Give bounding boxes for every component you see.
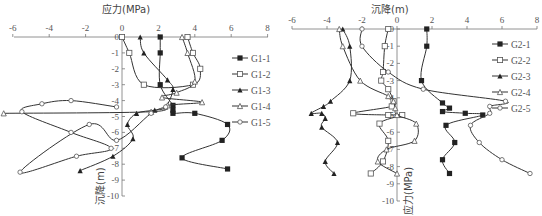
y-tick-label: -3 <box>387 76 395 86</box>
series-g1-5 <box>18 98 168 174</box>
chart-g2-y-axis-title: 应力(MPa) <box>402 167 414 215</box>
chart-canvas: 应力(MPa) 沉降(m) -6-4-2024680-1-2-3-4-5-6-7… <box>0 0 542 216</box>
y-tick-label: -10 <box>107 191 119 201</box>
legend-label: G2-1 <box>511 40 531 50</box>
x-tick-label: 0 <box>395 15 400 25</box>
x-tick-label: 0 <box>120 23 125 33</box>
x-tick-label: 4 <box>465 15 470 25</box>
chart-g1-x-axis-title: 应力(MPa) <box>102 3 150 15</box>
y-tick-label: -4 <box>112 96 120 106</box>
legend-item-g2-4: G2-4 <box>492 88 531 98</box>
series-g2-4 <box>337 26 419 176</box>
legend-item-g1-4: G1-4 <box>232 102 271 112</box>
legend-label: G2-4 <box>511 88 531 98</box>
chart-g1: 应力(MPa) 沉降(m) -6-4-2024680-1-2-3-4-5-6-7… <box>1 3 271 205</box>
legend-label: G2-3 <box>511 72 531 82</box>
y-tick-label: -2 <box>387 58 395 68</box>
chart-g2: 沉降(m) 应力(MPa) -6-4-2024680-1-2-3-4-5-6-7… <box>288 3 540 215</box>
x-tick-label: -6 <box>288 15 296 25</box>
x-tick-label: -4 <box>323 15 331 25</box>
legend-label: G2-5 <box>511 104 531 114</box>
legend-item-g1-1: G1-1 <box>232 54 271 64</box>
x-tick-label: 8 <box>535 15 540 25</box>
x-tick-label: 6 <box>229 23 234 33</box>
legend-item-g2-1: G2-1 <box>492 40 531 50</box>
legend-label: G1-2 <box>251 70 271 80</box>
y-tick-label: -6 <box>387 127 395 137</box>
x-tick-label: -6 <box>9 23 17 33</box>
chart-g2-x-axis-title: 沉降(m) <box>371 3 409 15</box>
x-tick-label: 8 <box>265 23 270 33</box>
legend-label: G1-4 <box>251 102 271 112</box>
y-tick-label: -10 <box>382 196 394 206</box>
x-tick-label: 4 <box>193 23 198 33</box>
series-g2-1 <box>419 26 485 176</box>
legend-item-g2-3: G2-3 <box>492 72 531 82</box>
legend-item-g1-5: G1-5 <box>232 118 271 128</box>
legend-item-g1-3: G1-3 <box>232 86 271 96</box>
legend-label: G1-5 <box>251 118 271 128</box>
x-tick-label: 2 <box>430 15 435 25</box>
legend-label: G1-1 <box>251 54 271 64</box>
y-tick-label: -9 <box>387 179 395 189</box>
legend-label: G2-2 <box>511 56 531 66</box>
y-tick-label: -3 <box>112 80 120 90</box>
legend-label: G1-3 <box>251 86 271 96</box>
x-tick-label: -2 <box>82 23 90 33</box>
y-tick-label: -2 <box>112 64 120 74</box>
y-tick-label: -8 <box>112 159 120 169</box>
y-tick-label: -6 <box>112 127 120 137</box>
y-tick-label: -1 <box>112 48 120 58</box>
legend-item-g2-2: G2-2 <box>492 56 531 66</box>
y-tick-label: 0 <box>115 32 120 42</box>
legend-item-g1-2: G1-2 <box>232 70 271 80</box>
x-tick-label: -2 <box>358 15 366 25</box>
x-tick-label: 6 <box>500 15 505 25</box>
x-tick-label: -4 <box>45 23 53 33</box>
chart-g1-y-axis-title: 沉降(m) <box>94 167 106 205</box>
x-tick-label: 2 <box>156 23 161 33</box>
y-tick-label: -9 <box>112 175 120 185</box>
